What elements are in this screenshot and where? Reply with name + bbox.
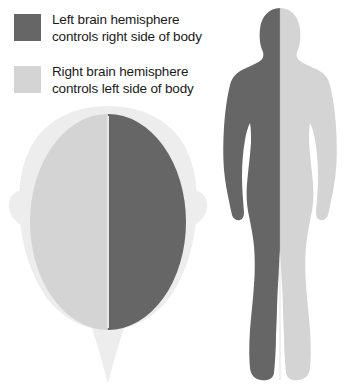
- legend-line-1: Right brain hemisphere: [52, 64, 194, 81]
- head-left-hemisphere-region: [30, 114, 186, 330]
- legend-item-right-hemisphere-label: Right brain hemisphere controls left sid…: [52, 64, 194, 97]
- head-outline-shape: [19, 106, 197, 330]
- legend-line-1: Left brain hemisphere: [52, 12, 202, 29]
- legend-swatch-light-icon: [14, 66, 41, 93]
- head-left-ear-shape: [9, 190, 43, 229]
- brain-body-diagram-figure: Left brain hemisphere controls right sid…: [0, 0, 344, 388]
- legend-line-2: controls right side of body: [52, 29, 202, 46]
- body-right-side-region: [223, 8, 337, 380]
- body-front-view-diagram: [223, 8, 337, 380]
- body-midline-divider: [279, 8, 280, 380]
- body-left-side-region: [223, 8, 337, 380]
- legend-line-2: controls left side of body: [52, 81, 194, 98]
- legend-item-left-hemisphere: Left brain hemisphere controls right sid…: [14, 12, 224, 45]
- legend: Left brain hemisphere controls right sid…: [14, 12, 224, 116]
- head-nose-shape: [88, 313, 128, 384]
- legend-item-right-hemisphere: Right brain hemisphere controls left sid…: [14, 64, 224, 97]
- legend-item-left-hemisphere-label: Left brain hemisphere controls right sid…: [52, 12, 202, 45]
- head-top-view-diagram: [9, 106, 207, 384]
- legend-swatch-dark-icon: [14, 14, 41, 41]
- head-right-ear-shape: [174, 190, 208, 229]
- head-midline-divider: [107, 116, 109, 328]
- head-right-hemisphere-region: [30, 114, 186, 330]
